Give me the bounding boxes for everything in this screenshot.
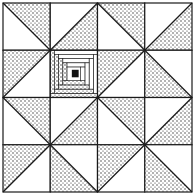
half-square-triangle — [98, 145, 145, 192]
half-square-triangle — [3, 50, 50, 97]
half-square-triangle — [98, 98, 145, 145]
half-square-triangle — [145, 145, 192, 192]
half-square-triangle — [50, 3, 97, 50]
log-cabin-square — [50, 50, 97, 97]
half-square-triangle — [98, 50, 145, 97]
half-square-triangle — [50, 98, 97, 145]
half-square-triangle — [98, 3, 145, 50]
half-square-triangle — [3, 98, 50, 145]
half-square-triangle — [3, 145, 50, 192]
half-square-triangle — [145, 3, 192, 50]
half-square-triangle — [3, 3, 50, 50]
half-square-triangle — [50, 145, 97, 192]
half-square-triangle — [145, 50, 192, 97]
half-square-triangle — [145, 98, 192, 145]
quilt-block — [0, 0, 195, 195]
